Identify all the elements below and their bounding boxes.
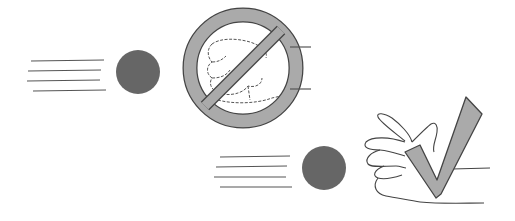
checkmark-icon: [405, 97, 482, 198]
motion-lines-icon: [27, 60, 106, 91]
illustration: incorrect-catch-fist correct-catch-open-…: [0, 0, 515, 221]
motion-lines-icon: [214, 156, 292, 187]
ball-icon: [302, 146, 346, 190]
scene-incorrect: [27, 15, 311, 121]
prohibited-icon: [190, 15, 296, 121]
ball-icon: [116, 50, 160, 94]
